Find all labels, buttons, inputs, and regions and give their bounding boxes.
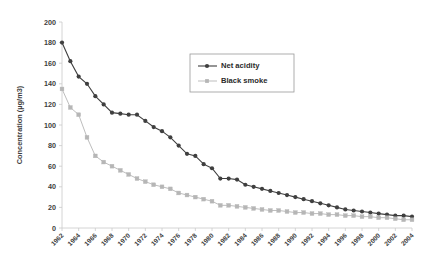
data-point bbox=[60, 87, 64, 91]
x-tick-label-1970: 1970 bbox=[116, 232, 132, 248]
y-tick-label-80: 80 bbox=[48, 141, 56, 150]
data-point bbox=[352, 214, 356, 218]
series-line bbox=[62, 89, 412, 220]
x-tick-label-1980: 1980 bbox=[199, 232, 215, 248]
data-point bbox=[210, 166, 214, 170]
data-point bbox=[177, 191, 181, 195]
data-point bbox=[285, 210, 289, 214]
data-point bbox=[168, 135, 172, 139]
data-point bbox=[143, 119, 147, 123]
x-tick-label-1972: 1972 bbox=[133, 232, 149, 248]
x-tick-label-1992: 1992 bbox=[299, 232, 315, 248]
data-point bbox=[68, 106, 72, 110]
x-tick-label-1968: 1968 bbox=[99, 232, 115, 248]
data-point bbox=[77, 113, 81, 117]
data-point bbox=[402, 218, 406, 222]
data-point bbox=[102, 160, 106, 164]
legend-label-1: Black smoke bbox=[221, 76, 267, 85]
y-tick-label-200: 200 bbox=[44, 18, 56, 27]
chart-container: 020406080100120140160180200 196219641966… bbox=[0, 0, 422, 278]
data-point bbox=[368, 210, 372, 214]
x-tick-label-2000: 2000 bbox=[366, 232, 382, 248]
data-point bbox=[335, 213, 339, 217]
data-point bbox=[243, 183, 247, 187]
data-point bbox=[327, 213, 331, 217]
data-point bbox=[243, 206, 247, 210]
data-point bbox=[193, 154, 197, 158]
data-point bbox=[260, 187, 264, 191]
data-point bbox=[277, 191, 281, 195]
data-point bbox=[60, 41, 64, 45]
data-point bbox=[160, 185, 164, 189]
data-point bbox=[402, 214, 406, 218]
series-black-smoke bbox=[60, 87, 414, 222]
data-point bbox=[235, 204, 239, 208]
y-tick-label-100: 100 bbox=[44, 121, 56, 130]
x-tick-label-1996: 1996 bbox=[333, 232, 349, 248]
axes bbox=[62, 22, 412, 228]
x-axis-tick-labels: 1962196419661968197019721974197619781980… bbox=[49, 228, 415, 247]
data-point bbox=[293, 211, 297, 215]
data-point bbox=[327, 203, 331, 207]
x-tick-label-1994: 1994 bbox=[316, 232, 332, 248]
x-tick-label-1962: 1962 bbox=[49, 232, 65, 248]
legend-box bbox=[190, 54, 294, 92]
data-point bbox=[110, 164, 114, 168]
x-tick-label-1984: 1984 bbox=[233, 232, 249, 248]
data-point bbox=[127, 173, 131, 177]
legend-marker bbox=[205, 64, 209, 68]
data-point bbox=[310, 212, 314, 216]
data-point bbox=[368, 215, 372, 219]
data-point bbox=[143, 180, 147, 184]
data-point bbox=[302, 211, 306, 215]
data-point bbox=[218, 203, 222, 207]
data-point bbox=[260, 208, 264, 212]
data-point bbox=[152, 125, 156, 129]
data-point bbox=[185, 152, 189, 156]
data-point bbox=[177, 144, 181, 148]
legend-marker bbox=[205, 79, 209, 83]
data-point bbox=[85, 135, 89, 139]
data-point bbox=[235, 177, 239, 181]
x-tick-label-1978: 1978 bbox=[183, 232, 199, 248]
data-point bbox=[93, 154, 97, 158]
y-tick-label-140: 140 bbox=[44, 79, 56, 88]
data-point bbox=[385, 216, 389, 220]
data-point bbox=[210, 199, 214, 203]
data-point bbox=[335, 205, 339, 209]
data-point bbox=[202, 197, 206, 201]
data-point bbox=[343, 214, 347, 218]
data-point bbox=[135, 177, 139, 181]
data-point bbox=[343, 207, 347, 211]
data-point bbox=[127, 113, 131, 117]
data-point bbox=[310, 199, 314, 203]
y-tick-label-20: 20 bbox=[48, 203, 56, 212]
x-tick-label-1964: 1964 bbox=[66, 232, 82, 248]
data-point bbox=[77, 74, 81, 78]
data-point bbox=[168, 187, 172, 191]
legend: Net acidityBlack smoke bbox=[190, 54, 294, 92]
data-point bbox=[102, 102, 106, 106]
x-tick-label-1976: 1976 bbox=[166, 232, 182, 248]
x-tick-label-1998: 1998 bbox=[349, 232, 365, 248]
x-tick-label-1966: 1966 bbox=[83, 232, 99, 248]
data-point bbox=[118, 112, 122, 116]
data-point bbox=[185, 193, 189, 197]
y-axis-title-text: Concentration (µg/m3) bbox=[15, 85, 24, 164]
data-point bbox=[252, 185, 256, 189]
data-point bbox=[268, 209, 272, 213]
y-axis-title: Concentration (µg/m3) bbox=[15, 85, 24, 164]
y-tick-label-120: 120 bbox=[44, 100, 56, 109]
y-tick-label-180: 180 bbox=[44, 38, 56, 47]
y-tick-label-160: 160 bbox=[44, 59, 56, 68]
data-point bbox=[68, 59, 72, 63]
data-point bbox=[193, 195, 197, 199]
y-tick-label-60: 60 bbox=[48, 162, 56, 171]
data-point bbox=[277, 209, 281, 213]
data-point bbox=[360, 215, 364, 219]
data-point bbox=[377, 211, 381, 215]
y-tick-label-40: 40 bbox=[48, 182, 56, 191]
x-tick-label-1988: 1988 bbox=[266, 232, 282, 248]
data-point bbox=[218, 176, 222, 180]
data-point bbox=[352, 208, 356, 212]
